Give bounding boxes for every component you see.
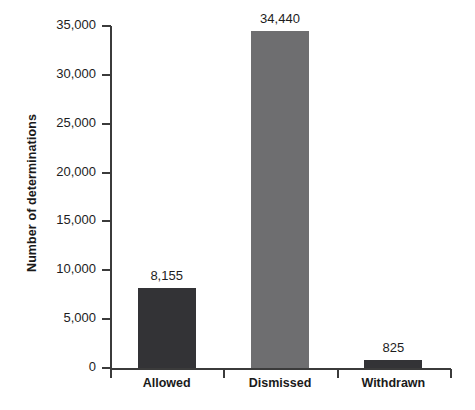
bar: [364, 360, 422, 368]
y-axis-tick-label: 5,000: [28, 310, 96, 325]
x-axis-category-label: Dismissed: [220, 376, 340, 390]
y-axis-tick-mark: [102, 172, 111, 174]
x-axis-category-label: Withdrawn: [333, 376, 453, 390]
x-axis-category-label: Allowed: [107, 376, 227, 390]
y-axis-tick-label: 25,000: [28, 115, 96, 130]
bar: [138, 288, 196, 368]
y-axis-tick-mark: [102, 123, 111, 125]
y-axis-tick-label: 10,000: [28, 261, 96, 276]
y-axis-tick-label: 30,000: [28, 66, 96, 81]
bar-value-label: 8,155: [107, 268, 227, 283]
y-axis-tick-label: 0: [28, 359, 96, 374]
y-axis-tick-mark: [102, 25, 111, 27]
bar-chart: Number of determinations 05,00010,00015,…: [0, 0, 475, 410]
y-axis-tick-mark: [102, 74, 111, 76]
bar-value-label: 825: [333, 340, 453, 355]
x-axis-line: [110, 368, 451, 370]
y-axis-tick-label: 15,000: [28, 212, 96, 227]
y-axis-tick-mark: [102, 220, 111, 222]
y-axis-title: Number of determinations: [25, 73, 39, 313]
bar: [251, 31, 309, 368]
y-axis-tick-label: 35,000: [28, 17, 96, 32]
y-axis-tick-label: 20,000: [28, 164, 96, 179]
bar-value-label: 34,440: [220, 11, 340, 26]
y-axis-tick-mark: [102, 318, 111, 320]
